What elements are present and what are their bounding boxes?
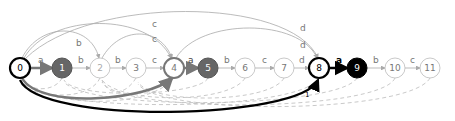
- edge-label: d: [299, 55, 305, 65]
- node-label: 1: [59, 63, 65, 73]
- node-label: 7: [281, 63, 287, 73]
- node-label: 0: [17, 63, 23, 73]
- edge-label: a: [336, 55, 342, 65]
- node-label: 8: [316, 63, 322, 73]
- node-label: 5: [205, 63, 211, 73]
- node-label: 9: [354, 63, 360, 73]
- node-label: 4: [171, 63, 177, 73]
- node-9: 9: [347, 58, 367, 78]
- node-label: 10: [389, 63, 401, 73]
- edge-label: b: [224, 55, 230, 65]
- failure-links: [22, 78, 430, 107]
- automaton-svg: b c c d d 1 a b b: [0, 0, 455, 121]
- node-label: 3: [133, 63, 139, 73]
- node-label: 6: [242, 63, 248, 73]
- arc-label: d: [300, 40, 306, 50]
- node-1: 1: [52, 58, 72, 78]
- node-label: 11: [424, 63, 435, 73]
- arc-label: d: [300, 23, 306, 33]
- edge-label: b: [78, 55, 84, 65]
- node-2: 2: [90, 58, 110, 78]
- node-7: 7: [274, 58, 294, 78]
- node-label: 2: [97, 63, 103, 73]
- node-0: 0: [10, 58, 30, 78]
- edge-label: b: [115, 55, 121, 65]
- edge-label: b: [373, 55, 379, 65]
- arc-label: 1: [305, 91, 309, 99]
- arc-label: c: [152, 19, 157, 29]
- arc-label: b: [76, 38, 82, 48]
- automaton-diagram: b c c d d 1 a b b: [0, 0, 455, 121]
- edge-label: c: [262, 55, 267, 65]
- node-11: 11: [420, 58, 440, 78]
- arc-label: c: [152, 34, 157, 44]
- edge-sublabel: 1: [337, 65, 341, 72]
- node-4: 4: [164, 58, 184, 78]
- edge-label: c: [410, 55, 415, 65]
- node-8: 8: [309, 58, 329, 78]
- edge-label: a: [38, 55, 44, 65]
- node-10: 10: [385, 58, 405, 78]
- node-3: 3: [126, 58, 146, 78]
- node-6: 6: [235, 58, 255, 78]
- top-arcs: [22, 12, 318, 59]
- edge-label: a: [188, 55, 194, 65]
- edge-label: c: [152, 55, 157, 65]
- node-5: 5: [198, 58, 218, 78]
